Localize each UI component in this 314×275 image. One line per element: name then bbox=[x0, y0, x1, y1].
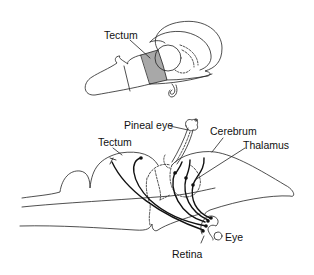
cerebrum-pointer bbox=[212, 138, 223, 152]
label-retina: Retina bbox=[172, 249, 202, 260]
label-tectum-top: Tectum bbox=[104, 30, 138, 41]
label-cerebrum: Cerebrum bbox=[210, 126, 257, 137]
brain-diagram bbox=[0, 0, 314, 275]
label-eye: Eye bbox=[225, 232, 243, 243]
retina-pointer bbox=[201, 236, 204, 243]
label-tectum-bottom: Tectum bbox=[98, 137, 132, 148]
label-pineal-eye: Pineal eye bbox=[124, 120, 173, 131]
label-thalamus: Thalamus bbox=[243, 140, 289, 151]
eye-icon bbox=[214, 232, 222, 240]
